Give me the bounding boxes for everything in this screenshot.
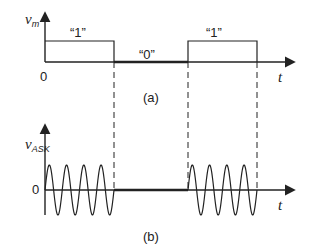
caption-a: (a) <box>143 91 159 104</box>
origin-label-b: 0 <box>32 183 39 196</box>
vask-axis-label: vASK <box>25 137 50 152</box>
bit-label-0: “0” <box>139 48 155 61</box>
vm-axis-label: vm <box>25 12 39 27</box>
ask-diagram <box>0 0 310 250</box>
pulse-bit-1 <box>45 41 114 62</box>
pulse-bit-3 <box>188 41 257 62</box>
bit-label-1: “1” <box>70 26 86 39</box>
caption-b: (b) <box>143 230 159 243</box>
bit-label-2: “1” <box>206 26 222 39</box>
t-label-b: t <box>278 198 282 213</box>
t-label-a: t <box>278 70 282 85</box>
origin-label-a: 0 <box>40 70 47 83</box>
